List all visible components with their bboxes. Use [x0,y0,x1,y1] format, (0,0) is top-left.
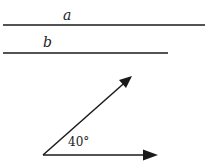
arrowhead-horizontal-icon [143,150,158,161]
diagram-canvas: a b 40° [0,0,213,166]
line-a-group: a [3,7,205,25]
angle-group: 40° [43,76,158,161]
line-b-group: b [3,34,168,53]
line-b-label: b [43,34,52,50]
line-a-label: a [63,7,71,23]
angle-label: 40° [68,135,89,149]
